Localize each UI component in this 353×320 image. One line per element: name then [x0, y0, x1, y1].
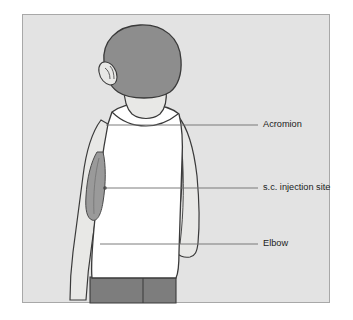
- elbow-label: Elbow: [263, 238, 288, 248]
- acromion-label: Acromion: [263, 119, 302, 129]
- anatomical-illustration: Acromion s.c. injection site Elbow: [0, 0, 353, 320]
- shorts: [90, 277, 176, 303]
- hair: [104, 25, 181, 98]
- sc-injection-site-label: s.c. injection site: [263, 182, 330, 192]
- figure-container: Acromion s.c. injection site Elbow: [0, 0, 353, 320]
